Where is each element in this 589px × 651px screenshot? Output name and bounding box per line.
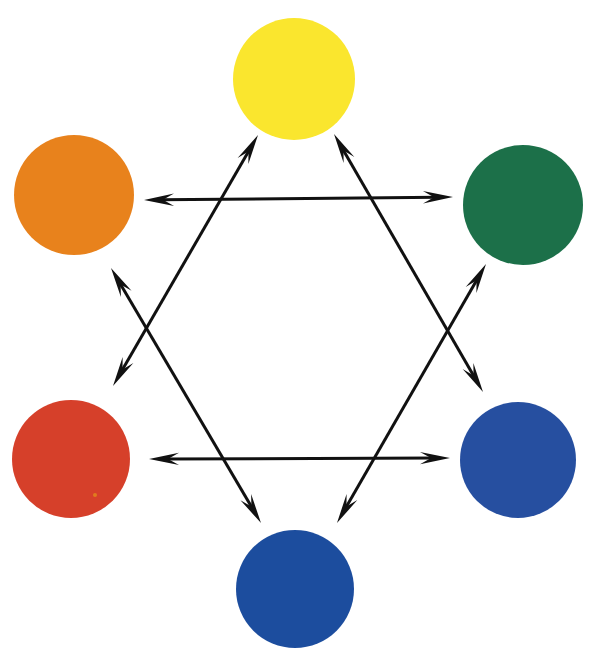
color-disc-blue-right: Blue (460, 402, 576, 518)
color-disc-red: Red (12, 400, 130, 518)
diagram-canvas: YellowOrangeGreenRedBlueBlue (0, 0, 589, 651)
color-disc-orange: Orange (14, 135, 134, 255)
red-disc-speck (93, 493, 97, 497)
color-disc-blue-bottom: Blue (236, 530, 354, 648)
color-disc-yellow: Yellow (233, 18, 355, 140)
color-wheel-diagram: YellowOrangeGreenRedBlueBlue (0, 0, 589, 651)
arrow-shaft (164, 458, 435, 459)
surface-marks-group (93, 493, 97, 497)
color-disc-green: Green (463, 145, 583, 265)
